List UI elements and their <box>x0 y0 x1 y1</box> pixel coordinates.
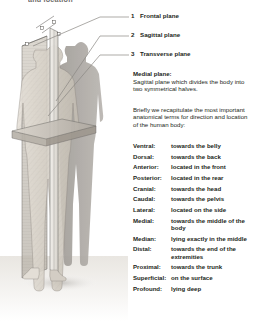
glossary-definition: towards the belly <box>171 142 251 149</box>
legend-number: 2 <box>131 31 140 39</box>
leader-line-1 <box>33 17 129 46</box>
medial-plane-note: Medial plane: Sagittal plane which divid… <box>133 70 251 93</box>
page-root: and location <box>0 0 254 321</box>
glossary-definition: on the surface <box>171 274 251 281</box>
plane-legend: 1 Frontal plane 2 Sagittal plane 3 Trans… <box>131 12 254 69</box>
glossary-row: Caudal: towards the pelvis <box>133 195 251 202</box>
glossary-term: Caudal: <box>133 195 171 202</box>
glossary-row: Profound: lying deep <box>133 285 251 292</box>
glossary-term: Anterior: <box>133 163 171 170</box>
glossary-term: Proximal: <box>133 263 171 270</box>
page-header-text: and location <box>28 0 138 3</box>
glossary-definition: towards the back <box>171 153 251 160</box>
glossary-row: Dorsal: towards the back <box>133 153 251 160</box>
legend-item: 1 Frontal plane <box>131 12 254 31</box>
glossary-definition: towards the head <box>171 185 251 192</box>
glossary-term: Posterior: <box>133 174 171 181</box>
glossary-row: Posterior: located in the rear <box>133 174 251 181</box>
glossary-definition: towards the pelvis <box>171 195 251 202</box>
glossary-row: Distal: towards the end of the extremiti… <box>133 245 251 260</box>
glossary-definition: located on the side <box>171 206 251 213</box>
glossary-term: Cranial: <box>133 185 171 192</box>
glossary-row: Cranial: towards the head <box>133 185 251 192</box>
legend-number: 3 <box>131 50 140 58</box>
glossary-definition: located in the rear <box>171 174 251 181</box>
legend-item: 3 Transverse plane <box>131 50 254 69</box>
glossary-definition: towards the trunk <box>171 263 251 270</box>
glossary-row: Medial: towards the middle of the body <box>133 217 251 232</box>
glossary-row: Superficial: on the surface <box>133 274 251 281</box>
legend-item: 2 Sagittal plane <box>131 31 254 50</box>
directional-terms-glossary: Ventral: towards the belly Dorsal: towar… <box>133 142 251 296</box>
glossary-definition: located in the front <box>171 163 251 170</box>
glossary-term: Distal: <box>133 245 171 252</box>
medial-plane-heading: Medial plane: <box>133 70 251 77</box>
glossary-row: Median: lying exactly in the middle <box>133 235 251 242</box>
intro-paragraph: Briefly we recapitulate the most importa… <box>133 106 251 128</box>
glossary-term: Median: <box>133 235 171 242</box>
glossary-definition: lying exactly in the middle <box>171 235 251 242</box>
glossary-definition: lying deep <box>171 285 251 292</box>
glossary-definition: towards the end of the extremities <box>171 245 251 260</box>
legend-label: Sagittal plane <box>140 31 180 39</box>
glossary-term: Dorsal: <box>133 153 171 160</box>
legend-number: 1 <box>131 12 140 20</box>
leader-line-2 <box>56 36 129 101</box>
glossary-row: Ventral: towards the belly <box>133 142 251 149</box>
medial-plane-body: Sagittal plane which divides the body in… <box>133 78 251 93</box>
legend-label: Frontal plane <box>140 12 179 20</box>
leader-line-3 <box>48 55 129 116</box>
page-header-fragment: and location <box>28 0 138 3</box>
glossary-term: Profound: <box>133 285 171 292</box>
glossary-definition: towards the middle of the body <box>171 217 251 232</box>
glossary-row: Anterior: located in the front <box>133 163 251 170</box>
glossary-row: Proximal: towards the trunk <box>133 263 251 270</box>
glossary-term: Ventral: <box>133 142 171 149</box>
legend-label: Transverse plane <box>140 50 191 58</box>
glossary-term: Medial: <box>133 217 171 224</box>
leader-lines <box>0 6 140 126</box>
glossary-term: Lateral: <box>133 206 171 213</box>
intro-body: Briefly we recapitulate the most importa… <box>133 106 251 128</box>
glossary-term: Superficial: <box>133 274 171 281</box>
glossary-row: Lateral: located on the side <box>133 206 251 213</box>
